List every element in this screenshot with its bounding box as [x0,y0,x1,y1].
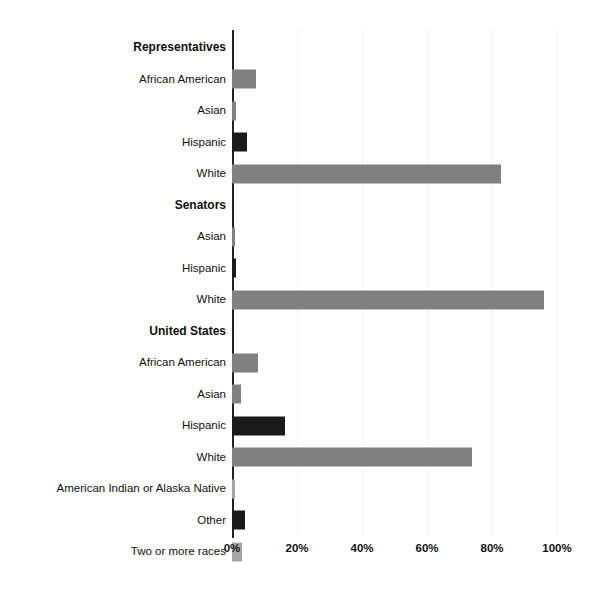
bar [232,227,235,246]
bar-row: Asian [0,221,607,253]
bar-track [232,253,607,285]
category-label: White [0,167,232,180]
bar-track [232,127,607,159]
bar-track [232,284,607,316]
bar-track [232,347,607,379]
category-label: American Indian or Alaska Native [0,482,232,495]
bar-row: Other [0,505,607,537]
bar-row: African American [0,347,607,379]
bar [232,290,544,309]
bar-track [232,473,607,505]
category-label: White [0,293,232,306]
bar-row: White [0,284,607,316]
bar-track [232,64,607,96]
x-tick-label: 40% [350,542,373,554]
bar [232,101,236,120]
category-label: Hispanic [0,419,232,432]
bar-row: Hispanic [0,127,607,159]
bar [232,259,236,278]
bar-row: African American [0,64,607,96]
category-label: White [0,451,232,464]
category-label: African American [0,356,232,369]
bar-row: Hispanic [0,410,607,442]
category-label: Asian [0,388,232,401]
bar [232,353,258,372]
bar [232,164,501,183]
category-label: Asian [0,104,232,117]
x-tick-label: 20% [285,542,308,554]
bar-track [232,95,607,127]
category-label: Other [0,514,232,527]
bar [232,70,256,89]
bar-row: White [0,158,607,190]
bar-track [232,221,607,253]
group-label: Representatives [0,41,232,54]
group-header-row: United States [0,316,607,348]
category-label: African American [0,73,232,86]
bar [232,385,241,404]
category-label: Asian [0,230,232,243]
x-tick-label: 60% [415,542,438,554]
bar-track [232,32,607,64]
group-label: Senators [0,199,232,212]
bar-track [232,442,607,474]
x-tick-label: 0% [224,542,241,554]
bar-track [232,379,607,411]
bar-row: Asian [0,379,607,411]
bar-track [232,505,607,537]
bar-rows: RepresentativesAfrican AmericanAsianHisp… [0,32,607,568]
plot-area: RepresentativesAfrican AmericanAsianHisp… [0,0,607,596]
bar [232,479,235,498]
bar [232,416,285,435]
bar-row: American Indian or Alaska Native [0,473,607,505]
bar-track [232,190,607,222]
group-header-row: Senators [0,190,607,222]
group-header-row: Representatives [0,32,607,64]
bar-track [232,158,607,190]
category-label: Hispanic [0,262,232,275]
bar-row: Asian [0,95,607,127]
bar-row: White [0,442,607,474]
group-label: United States [0,325,232,338]
category-label: Hispanic [0,136,232,149]
x-axis: 0%20%40%60%80%100% [0,538,607,568]
bar-row: Hispanic [0,253,607,285]
bar-track [232,410,607,442]
bar-track [232,316,607,348]
bar [232,448,472,467]
bar-chart: RepresentativesAfrican AmericanAsianHisp… [0,0,607,596]
x-tick-label: 80% [480,542,503,554]
bar [232,511,245,530]
x-tick-label: 100% [542,542,571,554]
bar [232,133,247,152]
